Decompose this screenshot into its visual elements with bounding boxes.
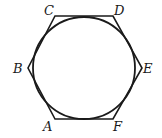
vertex-label-c: C bbox=[44, 3, 54, 18]
vertex-label-f: F bbox=[112, 119, 123, 134]
vertex-label-d: D bbox=[113, 3, 125, 18]
vertex-label-e: E bbox=[142, 61, 153, 76]
hexagon-inscribed-circle-diagram: A B C D E F bbox=[0, 0, 162, 138]
vertex-label-a: A bbox=[42, 119, 52, 134]
inscribed-circle bbox=[33, 17, 135, 119]
hexagon bbox=[28, 16, 142, 119]
vertex-label-b: B bbox=[12, 61, 23, 76]
